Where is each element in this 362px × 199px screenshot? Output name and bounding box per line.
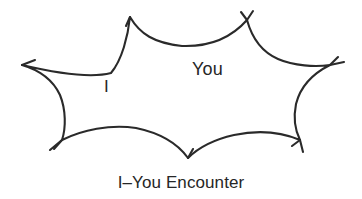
burst-outline-group: [22, 11, 344, 158]
overshoot-top-right-b: [247, 11, 253, 20]
burst-outline-path: [22, 17, 330, 158]
overshoot-left: [22, 60, 35, 65]
region-label-i: I: [104, 78, 109, 95]
overshoot-bottom-right-a: [300, 140, 303, 152]
figure-root: I You I–You Encounter: [0, 0, 362, 199]
overshoot-top-right-a: [241, 12, 247, 20]
burst-shape-svg: [0, 0, 362, 199]
figure-caption: I–You Encounter: [0, 174, 362, 193]
region-label-you: You: [192, 60, 223, 78]
overshoot-bottom-right-b: [292, 140, 300, 146]
